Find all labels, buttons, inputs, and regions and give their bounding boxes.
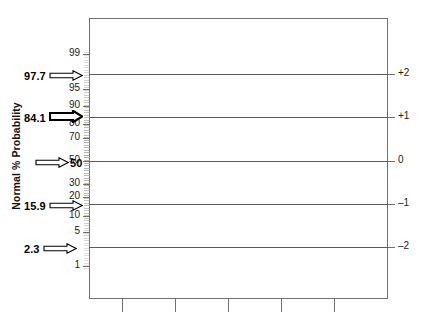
minor-tick (84, 147, 90, 148)
minor-tick (84, 75, 90, 76)
minor-tick (84, 112, 90, 113)
callout-arrow-icon (49, 109, 83, 127)
left-tick-label: 1 (74, 259, 80, 270)
minor-tick (84, 117, 90, 118)
left-tick-mark (83, 232, 89, 233)
minor-tick (84, 223, 90, 224)
x-tick-mark (175, 299, 176, 312)
minor-tick (84, 175, 90, 176)
left-tick-label: 99 (69, 47, 80, 58)
x-tick-mark (228, 299, 229, 312)
left-tick-mark (83, 266, 89, 267)
minor-tick (84, 70, 90, 71)
minor-tick (84, 253, 90, 254)
left-tick-mark (83, 89, 89, 90)
callout-50: 50 (32, 155, 82, 171)
minor-tick (84, 80, 90, 81)
right-tick-mark (388, 161, 395, 162)
left-tick-mark (83, 161, 89, 162)
minor-tick (84, 110, 90, 111)
right-tick-label: +2 (398, 67, 409, 78)
minor-tick (84, 142, 90, 143)
minor-tick (84, 65, 90, 66)
gridline (89, 74, 388, 75)
right-tick-mark (388, 117, 395, 118)
plot-area (89, 18, 388, 299)
minor-tick (84, 72, 90, 73)
callout-arrow-icon (35, 154, 69, 172)
minor-tick (84, 263, 90, 264)
right-tick-label: –1 (398, 197, 409, 208)
minor-tick (84, 107, 90, 108)
right-tick-label: +1 (398, 110, 409, 121)
minor-tick (84, 57, 90, 58)
minor-tick (84, 210, 90, 211)
right-tick-mark (388, 204, 395, 205)
minor-tick (84, 255, 90, 256)
minor-tick (84, 62, 90, 63)
minor-tick (84, 85, 90, 86)
right-tick-mark (388, 74, 395, 75)
minor-tick (84, 92, 90, 93)
minor-tick (84, 220, 90, 221)
callout-2-3: 2.3 (24, 241, 77, 257)
minor-tick (84, 190, 90, 191)
gridline (89, 204, 388, 205)
minor-tick (84, 165, 90, 166)
minor-tick (84, 157, 90, 158)
callout-arrow-icon (49, 197, 83, 215)
minor-tick (84, 52, 90, 53)
minor-tick (84, 140, 90, 141)
left-tick-mark (83, 184, 89, 185)
minor-tick (84, 163, 90, 164)
right-tick-mark (388, 247, 395, 248)
minor-tick (84, 268, 90, 269)
gridline (89, 117, 388, 118)
callout-value: 50 (70, 157, 82, 169)
left-tick-mark (83, 216, 89, 217)
minor-tick (84, 200, 90, 201)
x-tick-mark (281, 299, 282, 312)
minor-tick (84, 258, 90, 259)
minor-tick (84, 132, 90, 133)
left-tick-label: 70 (69, 131, 80, 142)
minor-tick (84, 180, 90, 181)
minor-tick (84, 173, 90, 174)
minor-tick (84, 82, 90, 83)
minor-tick (84, 67, 90, 68)
minor-tick (84, 95, 90, 96)
right-tick-label: 0 (398, 154, 404, 165)
minor-tick (84, 130, 90, 131)
callout-84-1: 84.1 (24, 110, 83, 126)
minor-tick (84, 248, 90, 249)
minor-tick (84, 195, 90, 196)
left-tick-label: 30 (69, 177, 80, 188)
minor-tick (84, 135, 90, 136)
callout-15-9: 15.9 (24, 198, 83, 214)
callout-value: 97.7 (24, 70, 46, 82)
minor-tick (84, 60, 90, 61)
minor-tick (84, 102, 90, 103)
minor-tick (84, 245, 90, 246)
minor-tick (84, 97, 90, 98)
callout-arrow-icon (43, 240, 77, 258)
minor-tick (84, 203, 90, 204)
minor-tick (84, 100, 90, 101)
minor-tick (84, 152, 90, 153)
minor-tick-scale (84, 52, 90, 268)
minor-tick (84, 243, 90, 244)
left-tick-mark (83, 54, 89, 55)
minor-tick (84, 250, 90, 251)
normal-probability-plot: 99959080705030201051 Normal % Probabilit… (0, 0, 437, 331)
minor-tick (84, 168, 90, 169)
minor-tick (84, 240, 90, 241)
left-tick-mark (83, 197, 89, 198)
callout-97-7: 97.7 (24, 68, 83, 84)
minor-tick (84, 235, 90, 236)
callout-arrow-icon (49, 67, 83, 85)
minor-tick (84, 178, 90, 179)
left-tick-label: 5 (74, 225, 80, 236)
minor-tick (84, 127, 90, 128)
minor-tick (84, 228, 90, 229)
minor-tick (84, 193, 90, 194)
